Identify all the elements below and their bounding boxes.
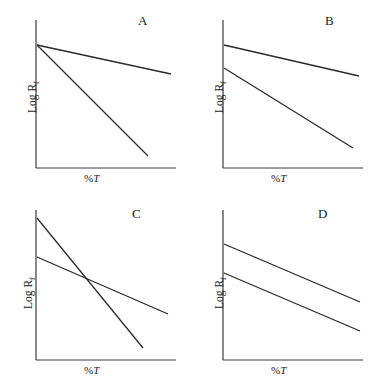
panel-d-letter: D	[318, 206, 328, 222]
panel-b-line-upper	[224, 45, 359, 76]
panel-d: D %T Log Rf	[187, 196, 374, 392]
panel-c-y-axis-label: Log Rf	[22, 277, 37, 309]
panel-c-x-axis-label: %T	[84, 364, 99, 376]
panel-c: C %T Log Rf	[0, 196, 187, 392]
figure-four-panel-plot: A %T Log Rf B %T Log Rf C %T Log Rf	[0, 0, 375, 392]
panel-d-line-upper	[224, 244, 360, 302]
panel-a-x-axis-label: %T	[84, 172, 99, 184]
panel-b: B %T Log Rf	[187, 0, 374, 196]
panel-d-y-axis-label: Log Rf	[213, 277, 228, 309]
panel-a: A %T Log Rf	[0, 0, 187, 196]
panel-b-letter: B	[325, 13, 334, 29]
panel-d-line-lower	[224, 273, 360, 331]
panel-c-line-shallow	[37, 257, 168, 314]
panel-b-line-lower	[224, 68, 353, 148]
panel-b-y-axis-label: Log Rf	[213, 81, 228, 113]
panel-b-x-axis-label: %T	[271, 172, 286, 184]
panel-d-x-axis-label: %T	[271, 364, 286, 376]
panel-c-letter: C	[132, 206, 141, 222]
panel-a-line-shallow	[37, 45, 171, 74]
panel-a-line-steep	[37, 45, 148, 156]
panel-a-y-axis-label: Log Rf	[26, 81, 41, 113]
panel-c-line-steep	[37, 218, 143, 348]
panel-a-letter: A	[138, 13, 148, 29]
